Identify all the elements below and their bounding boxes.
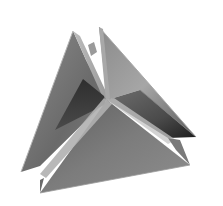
top-nub — [88, 42, 97, 56]
triangle-sculpture — [0, 0, 223, 206]
